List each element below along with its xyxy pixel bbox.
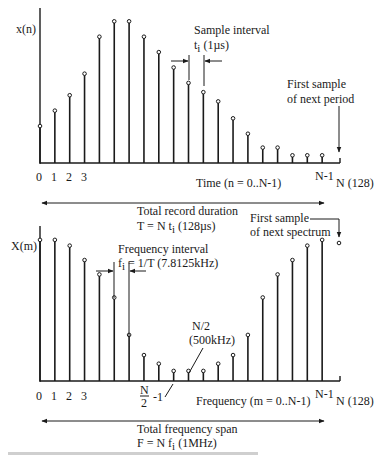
time-sample-point — [291, 154, 295, 158]
frequency-span-label: Total frequency span — [137, 422, 237, 436]
freq-sample-point — [202, 369, 206, 373]
time-tick-2: 2 — [66, 170, 72, 184]
next-spectrum-line2: of next spectrum — [250, 225, 331, 239]
freq-tick-end: N (128) — [336, 394, 374, 408]
time-sample-point — [53, 109, 57, 113]
time-y-label: x(n) — [16, 22, 36, 36]
time-sample-point — [112, 20, 116, 24]
time-stems — [38, 20, 324, 163]
time-tick-3: 3 — [81, 170, 87, 184]
time-sample-point — [187, 81, 191, 85]
time-tick-1: 1 — [51, 170, 57, 184]
freq-sample-point — [68, 244, 72, 248]
frequency-span-formula: F = N fi (1MHz) — [137, 436, 217, 452]
time-sample-point — [68, 93, 72, 97]
record-duration-formula: T = N ti (128µs) — [137, 219, 216, 235]
time-sample-point — [83, 72, 87, 76]
freq-sample-point — [276, 273, 280, 277]
freq-axis-title: Frequency (m = 0..N-1) — [196, 394, 310, 408]
time-axis-title: Time (n = 0..N-1) — [196, 176, 281, 190]
freq-tick-last: N-1 — [315, 387, 334, 401]
time-sample-point — [142, 35, 146, 39]
sample-interval-value: ti (1µs) — [194, 38, 229, 54]
freq-tick-2: 2 — [66, 389, 72, 403]
freq-sample-point — [38, 238, 42, 242]
record-duration-label: Total record duration — [137, 204, 238, 218]
next-spectrum-line1: First sample — [250, 211, 309, 225]
nyquist-line1: N/2 — [192, 319, 210, 333]
freq-sample-point — [83, 258, 87, 262]
frequency-plot: X(m) 0 1 2 3 N 2 -1 N-1 N (128) Frequenc… — [11, 211, 374, 452]
time-sample-point — [38, 124, 42, 128]
freq-sample-point — [261, 296, 265, 300]
freq-sample-point — [172, 369, 176, 373]
time-tick-end: N (128) — [336, 176, 374, 190]
time-sample-point — [172, 66, 176, 70]
time-tick-last: N-1 — [315, 169, 334, 183]
freq-interval-formula: fi = 1/T (7.8125kHz) — [118, 256, 218, 272]
freq-tick-half-den: 2 — [141, 396, 147, 410]
freq-tick-half-num: N — [140, 383, 149, 397]
sample-interval-label: Sample interval — [194, 23, 270, 37]
freq-tick-half-suffix: -1 — [153, 390, 163, 404]
freq-sample-point — [53, 238, 57, 242]
time-sample-point — [216, 100, 220, 104]
nyquist-line2: (500kHz) — [189, 333, 235, 347]
freq-sample-point — [231, 353, 235, 357]
time-sample-point — [306, 154, 310, 158]
time-plot: x(n) 0 1 2 3 N-1 N (128) Time (n = 0..N-… — [16, 8, 374, 235]
next-spectrum-sample — [337, 241, 341, 245]
freq-interval-label: Frequency interval — [118, 242, 209, 256]
freq-sample-point — [246, 333, 250, 337]
freq-sample-point — [306, 244, 310, 248]
freq-sample-point — [216, 362, 220, 366]
freq-sample-point — [291, 258, 295, 262]
nyquist-pointer — [189, 348, 203, 373]
freq-sample-point — [98, 273, 102, 277]
freq-y-label: X(m) — [11, 239, 37, 253]
time-sample-point — [127, 20, 131, 24]
time-sample-point — [261, 146, 265, 150]
time-sample-point — [246, 132, 250, 136]
time-sample-point — [98, 35, 102, 39]
time-sample-point — [320, 154, 324, 158]
freq-tick-half: N 2 -1 — [140, 383, 163, 410]
freq-sample-point — [142, 353, 146, 357]
time-tick-0: 0 — [36, 170, 42, 184]
freq-tick-0: 0 — [36, 389, 42, 403]
time-sample-point — [157, 50, 161, 54]
freq-tick-1: 1 — [51, 389, 57, 403]
time-sample-point — [202, 90, 206, 94]
half-tick-pointer — [165, 384, 173, 397]
next-period-line1: First sample — [287, 77, 346, 91]
freq-sample-point — [157, 362, 161, 366]
next-period-line2: of next period — [287, 92, 354, 106]
time-sample-point — [276, 146, 280, 150]
time-sample-point — [231, 117, 235, 121]
dft-diagram: x(n) 0 1 2 3 N-1 N (128) Time (n = 0..N-… — [0, 0, 385, 455]
freq-tick-3: 3 — [81, 389, 87, 403]
